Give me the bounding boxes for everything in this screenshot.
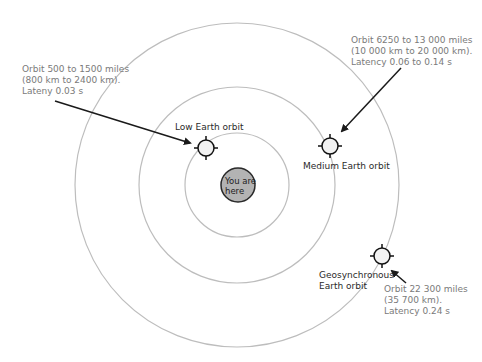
low-orbit-satellite-icon (194, 136, 218, 160)
geo-orbit-arrow (392, 271, 406, 283)
medium-orbit-satellite-icon (318, 134, 342, 158)
low-orbit-info-line: (800 km to 2400 km). (22, 75, 129, 86)
geo-orbit-info-line: Orbit 22 300 miles (384, 284, 468, 295)
medium-orbit-info: Orbit 6250 to 13 000 miles (10 000 km to… (351, 35, 472, 68)
geo-orbit-info-line: Latency 0.24 s (384, 306, 468, 317)
medium-orbit-name: Medium Earth orbit (303, 161, 390, 172)
geo-orbit-satellite-icon (370, 244, 394, 268)
medium-orbit-arrow (342, 68, 401, 131)
you-are-here-label: You are here (225, 176, 256, 196)
medium-orbit-info-line: Latency 0.06 to 0.14 s (351, 57, 472, 68)
medium-orbit-info-line: Orbit 6250 to 13 000 miles (351, 35, 472, 46)
medium-orbit-info-line: (10 000 km to 20 000 km). (351, 46, 472, 57)
geo-orbit-info-line: (35 700 km). (384, 295, 468, 306)
earth-label-line2: here (225, 186, 256, 196)
low-orbit-info-line: Lateny 0.03 s (22, 86, 129, 97)
geo-orbit-name-line2: Earth orbit (319, 281, 394, 292)
low-orbit-name: Low Earth orbit (175, 122, 244, 133)
low-orbit-info-line: Orbit 500 to 1500 miles (22, 64, 129, 75)
low-orbit-info: Orbit 500 to 1500 miles (800 km to 2400 … (22, 64, 129, 97)
geo-orbit-name-line1: Geosynchronous (319, 270, 394, 281)
geo-orbit-info: Orbit 22 300 miles (35 700 km). Latency … (384, 284, 468, 317)
earth-label-line1: You are (225, 176, 256, 186)
low-orbit-arrow (55, 101, 190, 143)
geo-orbit-name: Geosynchronous Earth orbit (319, 270, 394, 292)
